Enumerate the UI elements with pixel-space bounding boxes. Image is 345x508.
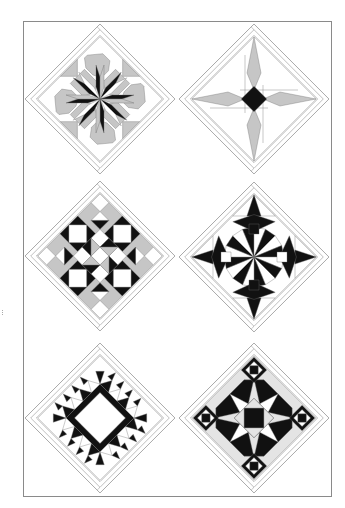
margin-mark: [2, 310, 6, 315]
quilt-sheet: [0, 0, 345, 508]
